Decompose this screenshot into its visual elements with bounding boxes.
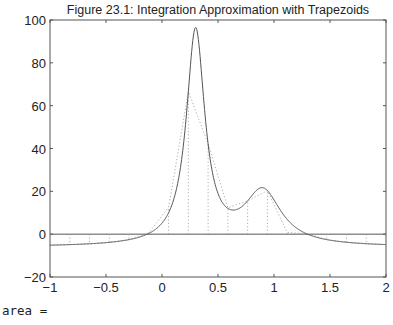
axes: −1−0.500.511.52−20020406080100	[24, 13, 390, 295]
y-tick-label: 60	[32, 99, 46, 114]
x-tick-label: 0	[158, 280, 165, 295]
x-tick-label: 1	[270, 280, 277, 295]
x-tick-label: 2	[382, 280, 389, 295]
chart: Figure 23.1: Integration Approximation w…	[0, 0, 393, 300]
chart-title: Figure 23.1: Integration Approximation w…	[67, 3, 369, 17]
x-tick-label: −0.5	[93, 280, 119, 295]
y-tick-label: 0	[39, 227, 46, 242]
y-tick-label: 20	[32, 184, 46, 199]
trapezoid-tops	[50, 92, 386, 246]
y-tick-label: −20	[24, 270, 46, 285]
x-tick-label: 0.5	[209, 280, 227, 295]
plot-area	[50, 28, 386, 246]
console-output: area =	[2, 303, 47, 318]
y-tick-label: 100	[24, 13, 46, 28]
x-tick-label: 1.5	[321, 280, 339, 295]
y-tick-label: 40	[32, 142, 46, 157]
plot-frame	[50, 20, 386, 277]
y-tick-label: 80	[32, 56, 46, 71]
humps-curve	[50, 28, 386, 246]
